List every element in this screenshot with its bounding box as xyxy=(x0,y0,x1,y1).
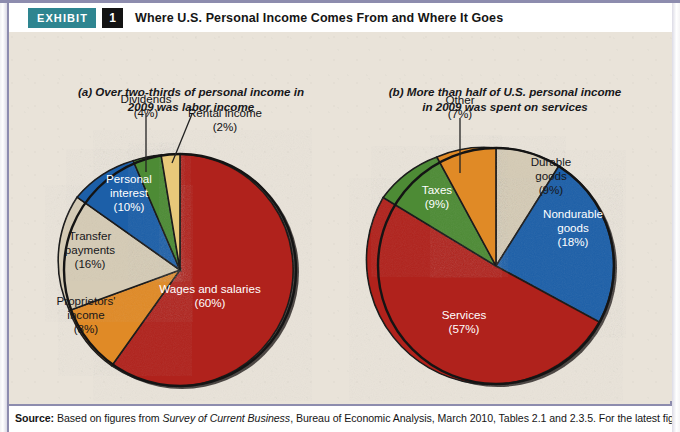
source-post: , Bureau of Economic Analysis, March 201… xyxy=(290,412,672,424)
scan-edge-right xyxy=(672,0,680,432)
exhibit-number-badge: 1 xyxy=(102,8,123,28)
callout-dividends-pct: (4%) xyxy=(134,106,158,119)
label-wages-name: Wages and salaries xyxy=(159,282,260,295)
label-wages-and-salaries: Wages and salaries (60%) xyxy=(143,282,277,310)
callout-dividends-name: Dividends xyxy=(121,92,172,105)
label-transfer-payments: Transfer payments (16%) xyxy=(41,229,139,271)
label-nondurable-pct: (18%) xyxy=(558,235,589,248)
label-durable-name1: Durable xyxy=(531,155,572,168)
callout-rental-income: Rental income (2%) xyxy=(161,106,289,134)
exhibit-tag: EXHIBIT xyxy=(28,8,96,28)
label-nondurable-name2: goods xyxy=(557,221,589,234)
exhibit-header: EXHIBIT 1 Where U.S. Personal Income Com… xyxy=(9,3,672,32)
source-footer: Source: Based on figures from Survey of … xyxy=(9,404,672,432)
label-durable-goods: Durable goods (9%) xyxy=(503,155,599,197)
callout-other: Other (7%) xyxy=(407,93,513,121)
source-note: Source: Based on figures from Survey of … xyxy=(15,412,670,424)
label-services: Services (57%) xyxy=(413,308,515,336)
label-services-pct: (57%) xyxy=(449,322,480,335)
label-durable-name2: goods xyxy=(535,169,567,182)
source-publication: Survey of Current Business xyxy=(162,412,290,424)
label-proprietors-name2: income xyxy=(67,308,104,321)
figure-plate: (a) Over two-thirds of personal income i… xyxy=(9,32,672,401)
label-transfer-name1: Transfer xyxy=(69,229,112,242)
label-taxes-name: Taxes xyxy=(422,183,452,196)
callout-other-pct: (7%) xyxy=(448,107,472,120)
label-transfer-name2: payments xyxy=(65,243,115,256)
label-proprietors-pct: (8%) xyxy=(74,322,98,335)
label-wages-pct: (60%) xyxy=(195,296,226,309)
pie-chart-personal-income xyxy=(9,32,349,401)
label-personal-interest: Personal interest (10%) xyxy=(81,172,177,214)
label-nondurable-goods: Nondurable goods (18%) xyxy=(519,207,627,249)
label-personal-interest-name2: interest xyxy=(110,186,148,199)
label-proprietors-income: Proprietors' income (8%) xyxy=(37,294,135,336)
callout-rental-name: Rental income xyxy=(188,106,262,119)
label-personal-interest-name1: Personal xyxy=(106,172,152,185)
label-nondurable-name1: Nondurable xyxy=(543,207,603,220)
label-taxes-pct: (9%) xyxy=(425,197,449,210)
label-transfer-pct: (16%) xyxy=(75,257,106,270)
callout-rental-pct: (2%) xyxy=(213,120,237,133)
label-taxes: Taxes (9%) xyxy=(401,183,473,211)
label-durable-pct: (9%) xyxy=(539,183,563,196)
source-label: Source: xyxy=(15,412,54,424)
exhibit-figure: EXHIBIT 1 Where U.S. Personal Income Com… xyxy=(0,0,680,432)
exhibit-title: Where U.S. Personal Income Comes From an… xyxy=(135,11,503,25)
source-pre: Based on figures from xyxy=(54,412,162,424)
scan-edge-left xyxy=(0,0,7,432)
label-services-name: Services xyxy=(442,308,486,321)
label-personal-interest-pct: (10%) xyxy=(114,200,145,213)
footer-rule xyxy=(9,404,672,406)
pie-a-svg xyxy=(9,32,349,401)
callout-other-name: Other xyxy=(446,93,475,106)
label-proprietors-name1: Proprietors' xyxy=(57,294,116,307)
